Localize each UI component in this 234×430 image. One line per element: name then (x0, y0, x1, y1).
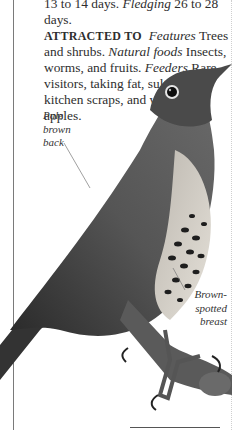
song-thrush-illustration (0, 0, 234, 430)
back-leader-line (64, 143, 90, 188)
footer-rule (130, 427, 220, 428)
book-page: 13 to 14 days. Fledging 26 to 28 days. A… (0, 0, 234, 430)
callout-brown-spotted-breast: Brown- spotted breast (187, 288, 227, 329)
callout-pale-brown-back: Pale brown back (43, 109, 83, 150)
